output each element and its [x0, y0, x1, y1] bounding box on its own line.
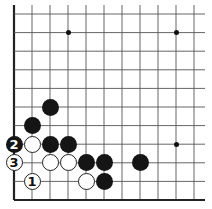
white-stone-move-3: 3: [6, 154, 23, 171]
black-stone: [132, 154, 149, 171]
black-stone: [96, 154, 113, 171]
black-stone: [96, 173, 113, 190]
move-number: 3: [9, 156, 18, 169]
star-point: [174, 30, 179, 35]
black-stone: [24, 117, 41, 134]
black-stone: [60, 136, 77, 153]
white-stone: [78, 173, 95, 190]
star-point: [66, 30, 71, 35]
move-number: 1: [27, 175, 36, 188]
white-stone: [24, 136, 41, 153]
black-stone: [42, 136, 59, 153]
white-stone: [60, 154, 77, 171]
white-stone: [42, 154, 59, 171]
star-point: [174, 142, 179, 147]
black-stone: [78, 154, 95, 171]
black-stone-move-2: 2: [6, 136, 23, 153]
black-stone: [42, 99, 59, 116]
move-number: 2: [9, 138, 18, 151]
go-board: 231: [0, 0, 212, 209]
white-stone-move-1: 1: [24, 173, 41, 190]
